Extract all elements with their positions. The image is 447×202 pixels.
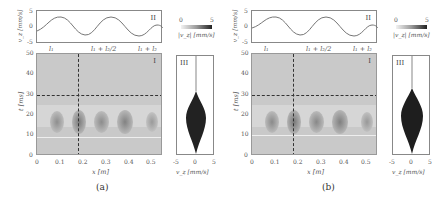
ytick: 5: [29, 8, 33, 14]
panel-label-i: I: [368, 57, 371, 65]
xtick: l₁ + l₂/2: [91, 46, 116, 53]
xtick: 0.1: [55, 159, 65, 165]
xtick: 0.5: [361, 159, 371, 165]
envelope-shape: [177, 56, 215, 156]
white-line: [37, 137, 162, 138]
ytick: 20: [26, 111, 34, 117]
colorbar-label: |v_z| [mm/s]: [393, 32, 430, 38]
wave-line: [37, 11, 163, 44]
blob: [146, 112, 158, 132]
dashed-horizontal: [252, 95, 377, 96]
caption: (a): [96, 182, 108, 192]
ytick: 30: [26, 91, 34, 97]
ytick: 30: [241, 91, 249, 97]
ytick: -5: [27, 39, 33, 45]
xtick: 0.4: [124, 159, 134, 165]
blob: [50, 111, 64, 133]
envelope-shape: [393, 56, 431, 156]
ytick: 40: [241, 70, 249, 76]
xtick: 5: [212, 159, 216, 165]
xtick: 0.5: [146, 159, 156, 165]
heatmap-xlabel: x [m]: [307, 169, 324, 176]
panel-label-iii: III: [396, 59, 404, 67]
xtick: 0.2: [78, 159, 88, 165]
ytick: 5: [244, 8, 248, 14]
heatmap-ylabel: t [ms]: [18, 92, 25, 111]
figure-a: II 5 0 -5 v_z [mm/s] l₁ l₁ + l₂/2 l₁ + l…: [0, 0, 222, 202]
dashed-horizontal: [37, 95, 162, 96]
ytick: 10: [241, 131, 249, 137]
xtick: 0.1: [270, 159, 280, 165]
ytick: 0: [244, 152, 248, 158]
panel-label-ii: II: [365, 14, 371, 22]
ytick: 10: [26, 131, 34, 137]
ytick: 0: [244, 23, 248, 29]
dashed-vertical: [78, 54, 79, 155]
profile-panel: III: [392, 55, 430, 155]
xtick: l₁ + l₂: [353, 46, 372, 53]
ytick: 20: [241, 111, 249, 117]
heatmap-xlabel: x [m]: [92, 169, 109, 176]
xtick: 0.3: [316, 159, 326, 165]
xtick: -5: [173, 159, 179, 165]
xtick: 0.3: [101, 159, 111, 165]
profile-panel: III: [176, 55, 214, 155]
xtick: 5: [428, 159, 432, 165]
ytick: 0: [29, 23, 33, 29]
xtick: 0: [250, 159, 254, 165]
xtick: l₁: [49, 46, 54, 53]
colorbar-max: 5: [425, 17, 429, 23]
panel-label-iii: III: [180, 59, 188, 67]
profile-xlabel: v_z [mm/s]: [392, 169, 425, 175]
ytick: 40: [26, 70, 34, 76]
blob: [265, 111, 279, 133]
white-line: [252, 135, 377, 136]
ytick: 50: [26, 50, 34, 56]
dashed-vertical: [293, 54, 294, 155]
ytick: -5: [242, 39, 248, 45]
profile-xlabel: v_z [mm/s]: [176, 169, 209, 175]
heatmap-panel: I: [36, 53, 162, 155]
figure-b: II 5 0 -5 v_z [mm/s] l₁ l₁ + l₂/2 l₁ + l…: [222, 0, 444, 202]
line-ylabel: v_z [mm/s]: [17, 10, 23, 43]
colorbar: [181, 25, 212, 29]
caption: (b): [322, 182, 335, 192]
blob: [117, 110, 133, 134]
colorbar-min: 0: [179, 17, 183, 23]
colorbar-min: 0: [394, 17, 398, 23]
heatmap-panel: I: [251, 53, 377, 155]
blob: [287, 110, 301, 134]
colorbar-max: 5: [210, 17, 214, 23]
ytick: 0: [29, 152, 33, 158]
blob: [361, 112, 373, 132]
xtick: l₁ + l₂/2: [306, 46, 331, 53]
line-ylabel: v_z [mm/s]: [232, 10, 238, 43]
colorbar-label: |v_z| [mm/s]: [178, 32, 215, 38]
blob: [94, 111, 109, 133]
blob: [332, 110, 348, 134]
colorbar: [396, 25, 427, 29]
xtick: 0: [35, 159, 39, 165]
xtick: 0.4: [339, 159, 349, 165]
wave-line: [252, 11, 378, 44]
xtick: 0: [409, 159, 413, 165]
xtick: -5: [389, 159, 395, 165]
xtick: 0.2: [293, 159, 303, 165]
ytick: 50: [241, 50, 249, 56]
xtick: l₁ + l₂: [138, 46, 157, 53]
blob: [72, 110, 86, 134]
line-panel: II: [251, 10, 377, 43]
heatmap-ylabel: t [ms]: [233, 92, 240, 111]
blob: [309, 111, 324, 133]
xtick: 0: [193, 159, 197, 165]
line-panel: II: [36, 10, 162, 43]
panel-label-ii: II: [150, 14, 156, 22]
xtick: l₁: [264, 46, 269, 53]
panel-label-i: I: [153, 57, 156, 65]
